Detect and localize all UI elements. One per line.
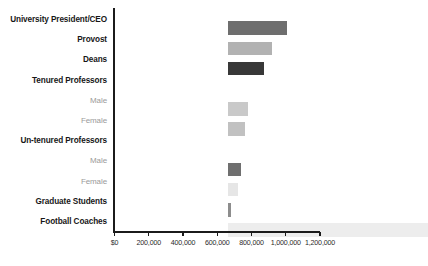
tick-label: 1,200,000: [305, 239, 335, 247]
plot-area: [113, 8, 343, 232]
tick-label: 800,000: [239, 239, 264, 247]
bar: [228, 203, 231, 217]
category-sublabel: Female: [0, 117, 107, 125]
bar: [228, 42, 273, 56]
category-sublabel: Male: [0, 157, 107, 165]
category-label: Graduate Students: [0, 198, 107, 206]
bar: [228, 122, 246, 136]
tick-label: 1,000,000: [271, 239, 301, 247]
bar: [228, 163, 242, 177]
tick-mark: [285, 232, 286, 236]
tick-mark: [114, 232, 115, 236]
category-label: Provost: [0, 36, 107, 44]
bar: [228, 102, 249, 116]
tick-mark: [217, 232, 218, 236]
tick-label: 400,000: [171, 239, 196, 247]
bar: [228, 21, 288, 35]
tick-mark: [148, 232, 149, 236]
tick-mark: [319, 232, 320, 236]
category-sublabel: Male: [0, 97, 107, 105]
tick-mark: [182, 232, 183, 236]
category-label: Football Coaches: [0, 218, 107, 226]
bar: [228, 62, 265, 76]
category-label: Tenured Professors: [0, 77, 107, 85]
category-label: Un-tenured Professors: [0, 137, 107, 145]
category-label: Deans: [0, 56, 107, 64]
category-sublabel: Female: [0, 178, 107, 186]
tick-mark: [251, 232, 252, 236]
tick-label: $0: [111, 239, 119, 247]
bar: [228, 183, 239, 197]
tick-label: 600,000: [205, 239, 230, 247]
category-label: University President/CEO: [0, 16, 107, 24]
y-axis-line: [113, 8, 115, 232]
tick-label: 200,000: [136, 239, 161, 247]
